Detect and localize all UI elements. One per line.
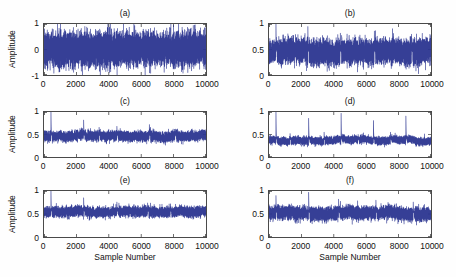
- x-tick-label: 4000: [324, 162, 343, 171]
- y-tick-label: 1: [259, 186, 264, 194]
- plot-box: [268, 23, 432, 76]
- x-tick-label: 0: [41, 242, 46, 251]
- x-tick-label: 10000: [420, 80, 444, 89]
- signal-plot-canvas: [44, 112, 206, 157]
- x-tick-label: 4000: [99, 162, 118, 171]
- subplot-f: (f) 1 0.5 0 0 2000 4000 6000 8000 10000 …: [268, 190, 432, 238]
- x-tick-label: 6000: [357, 162, 376, 171]
- x-tick-label: 4000: [324, 80, 343, 89]
- subplot-title: (b): [243, 8, 456, 18]
- x-tick-label: 8000: [390, 242, 409, 251]
- x-tick-label: 2000: [291, 162, 310, 171]
- y-tick-label: 0.5: [252, 210, 264, 218]
- amplitude-axis-label: Amplitude: [7, 111, 17, 158]
- y-tick-label: 0.5: [252, 46, 264, 54]
- sample-number-axis-label: Sample Number: [268, 252, 432, 262]
- x-tick-label: 4000: [99, 80, 118, 89]
- x-tick-label: 10000: [420, 242, 444, 251]
- x-tick-label: 0: [41, 162, 46, 171]
- y-tick-label: 1: [259, 19, 264, 27]
- signal-plot-canvas: [269, 112, 431, 157]
- x-tick-label: 10000: [195, 242, 219, 251]
- y-tick-label: 0: [34, 46, 39, 54]
- plot-box: [268, 111, 432, 158]
- x-tick-label: 10000: [195, 162, 219, 171]
- y-tick-label: 1: [34, 19, 39, 27]
- amplitude-axis-label: Amplitude: [7, 190, 17, 238]
- signal-plot-canvas: [44, 191, 206, 237]
- y-tick-label: 1: [34, 107, 39, 115]
- y-tick-label: 0: [259, 234, 264, 242]
- x-tick-label: 0: [266, 80, 271, 89]
- y-tick-label: 1: [34, 186, 39, 194]
- y-tick-label: -1: [31, 72, 39, 80]
- x-tick-label: 0: [266, 162, 271, 171]
- plot-box: [43, 190, 207, 238]
- y-tick-label: 0: [259, 72, 264, 80]
- y-tick-label: 0: [34, 154, 39, 162]
- plot-box: [43, 111, 207, 158]
- signal-plot-canvas: [269, 24, 431, 75]
- x-tick-label: 8000: [390, 80, 409, 89]
- x-tick-label: 10000: [420, 162, 444, 171]
- x-tick-label: 2000: [66, 242, 85, 251]
- x-tick-label: 10000: [195, 80, 219, 89]
- x-tick-label: 2000: [291, 80, 310, 89]
- y-tick-label: 0: [259, 154, 264, 162]
- y-tick-label: 1: [259, 107, 264, 115]
- plot-box: [268, 190, 432, 238]
- x-tick-label: 8000: [165, 242, 184, 251]
- x-tick-label: 6000: [132, 242, 151, 251]
- x-tick-label: 4000: [324, 242, 343, 251]
- subplot-title: (e): [18, 175, 232, 185]
- x-tick-label: 8000: [390, 162, 409, 171]
- plot-box: [43, 23, 207, 76]
- amplitude-axis-label: Amplitude: [7, 23, 17, 76]
- subplot-b: (b) 1 0.5 0 0 2000 4000 6000 8000 10000: [268, 23, 432, 76]
- x-tick-label: 8000: [165, 80, 184, 89]
- y-tick-label: 0.5: [27, 210, 39, 218]
- y-tick-label: 0: [34, 234, 39, 242]
- x-tick-label: 6000: [132, 80, 151, 89]
- figure: (a) 1 0 -1 0 2000 4000 6000 8000 10000 A…: [0, 0, 456, 277]
- subplot-title: (d): [243, 96, 456, 106]
- x-tick-label: 4000: [99, 242, 118, 251]
- subplot-a: (a) 1 0 -1 0 2000 4000 6000 8000 10000 A…: [43, 23, 207, 76]
- subplot-title: (a): [18, 8, 232, 18]
- x-tick-label: 6000: [132, 162, 151, 171]
- sample-number-axis-label: Sample Number: [43, 252, 207, 262]
- signal-plot-canvas: [44, 24, 206, 75]
- y-tick-label: 0.5: [27, 131, 39, 139]
- x-tick-label: 2000: [66, 162, 85, 171]
- x-tick-label: 2000: [291, 242, 310, 251]
- signal-plot-canvas: [269, 191, 431, 237]
- x-tick-label: 6000: [357, 80, 376, 89]
- x-tick-label: 8000: [165, 162, 184, 171]
- subplot-c: (c) 1 0.5 0 0 2000 4000 6000 8000 10000 …: [43, 111, 207, 158]
- subplot-title: (c): [18, 96, 232, 106]
- subplot-e: (e) 1 0.5 0 0 2000 4000 6000 8000 10000 …: [43, 190, 207, 238]
- subplot-d: (d) 1 0.5 0 0 2000 4000 6000 8000 10000: [268, 111, 432, 158]
- x-tick-label: 2000: [66, 80, 85, 89]
- x-tick-label: 6000: [357, 242, 376, 251]
- subplot-title: (f): [243, 175, 456, 185]
- x-tick-label: 0: [266, 242, 271, 251]
- x-tick-label: 0: [41, 80, 46, 89]
- y-tick-label: 0.5: [252, 131, 264, 139]
